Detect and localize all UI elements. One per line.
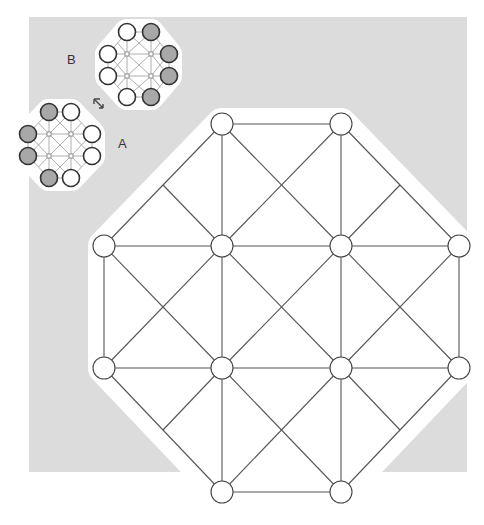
- grey-piece: [161, 46, 178, 63]
- grey-piece: [41, 170, 58, 187]
- white-piece: [119, 89, 136, 106]
- white-piece: [84, 126, 101, 143]
- white-piece: [84, 148, 101, 165]
- white-piece: [100, 46, 117, 63]
- board-node[interactable]: [330, 235, 352, 257]
- board-node[interactable]: [448, 357, 470, 379]
- board-node[interactable]: [330, 357, 352, 379]
- white-piece: [100, 68, 117, 85]
- grey-piece: [20, 126, 37, 143]
- board-node[interactable]: [330, 481, 352, 503]
- board-node[interactable]: [211, 235, 233, 257]
- grey-piece: [143, 24, 160, 41]
- board-a-label: A: [118, 136, 127, 151]
- board-node[interactable]: [330, 113, 352, 135]
- grey-piece: [161, 68, 178, 85]
- grey-piece: [41, 104, 58, 121]
- white-piece: [119, 24, 136, 41]
- board-node[interactable]: [211, 481, 233, 503]
- game-scene: [0, 0, 484, 525]
- grey-piece: [143, 89, 160, 106]
- board-node[interactable]: [211, 357, 233, 379]
- board-node[interactable]: [93, 357, 115, 379]
- board-node[interactable]: [93, 235, 115, 257]
- board-node[interactable]: [448, 235, 470, 257]
- white-piece: [63, 170, 80, 187]
- board-node[interactable]: [211, 113, 233, 135]
- white-piece: [63, 104, 80, 121]
- board-b-label: B: [67, 52, 76, 67]
- grey-piece: [20, 148, 37, 165]
